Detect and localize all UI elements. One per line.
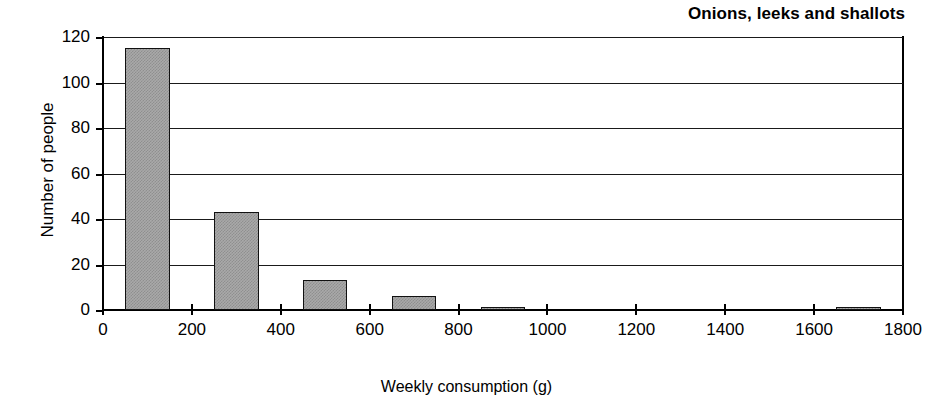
x-tick-label: 1800 — [868, 320, 933, 340]
x-tick-label: 1200 — [601, 320, 671, 340]
bar — [481, 307, 525, 310]
x-tick-label: 1400 — [690, 320, 760, 340]
bar — [392, 296, 436, 310]
bar — [125, 48, 169, 310]
x-tick-label: 800 — [424, 320, 494, 340]
y-tick-label: 0 — [30, 301, 90, 318]
y-tick-label-text: 60 — [38, 165, 90, 182]
y-tick-label-text: 20 — [38, 256, 90, 273]
x-tick-label: 0 — [68, 320, 138, 340]
histogram-chart: Onions, leeks and shallots Number of peo… — [0, 0, 933, 409]
y-tick-label: 80 — [30, 119, 90, 136]
y-tick-label: 40 — [30, 210, 90, 227]
bar — [836, 307, 880, 310]
y-tick-label: 60 — [30, 165, 90, 182]
y-tick-label-text: 80 — [38, 119, 90, 136]
plot-area — [103, 37, 903, 310]
y-tick-label: 20 — [30, 256, 90, 273]
bar — [303, 280, 347, 310]
x-tick-label: 600 — [335, 320, 405, 340]
x-tick-label: 200 — [157, 320, 227, 340]
y-tick-label: 120 — [30, 28, 90, 45]
y-tick-label-text: 120 — [38, 28, 90, 45]
y-tick-label-text: 40 — [38, 210, 90, 227]
chart-title: Onions, leeks and shallots — [688, 4, 905, 24]
x-tick-label: 1600 — [779, 320, 849, 340]
x-tick-label: 400 — [246, 320, 316, 340]
y-tick-label-text: 0 — [38, 301, 90, 318]
y-tick-label: 100 — [30, 74, 90, 91]
y-tick-label-text: 100 — [38, 74, 90, 91]
bar — [214, 212, 258, 310]
x-axis-title: Weekly consumption (g) — [0, 378, 933, 396]
x-tick-label: 1000 — [512, 320, 582, 340]
